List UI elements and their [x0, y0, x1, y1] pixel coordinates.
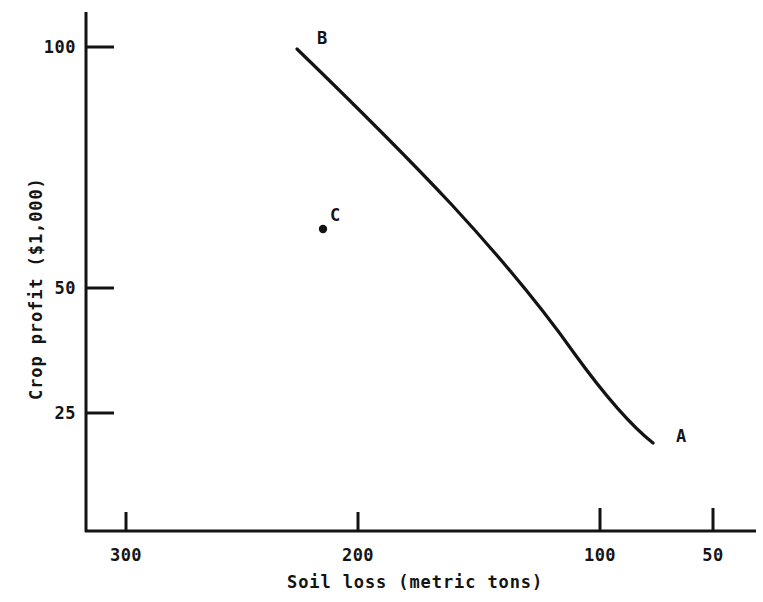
data-point-c-dot: [319, 225, 327, 233]
y-tick-label-25: 25: [18, 403, 76, 423]
point-label-c: C: [330, 205, 340, 225]
chart-canvas: [0, 0, 763, 602]
point-label-b: B: [317, 28, 327, 48]
y-axis-title: Crop profit ($1,000): [26, 177, 46, 400]
y-tick-label-100: 100: [18, 37, 76, 57]
curve-path: [297, 49, 653, 443]
x-axis-title: Soil loss (metric tons): [287, 572, 543, 592]
x-tick-label-50: 50: [702, 545, 723, 565]
point-label-a: A: [676, 426, 686, 446]
chart-figure: 100 50 25 300 200 100 50 Crop profit ($1…: [0, 0, 763, 602]
x-tick-label-100: 100: [584, 545, 616, 565]
x-tick-label-300: 300: [110, 545, 142, 565]
x-tick-label-200: 200: [342, 545, 374, 565]
